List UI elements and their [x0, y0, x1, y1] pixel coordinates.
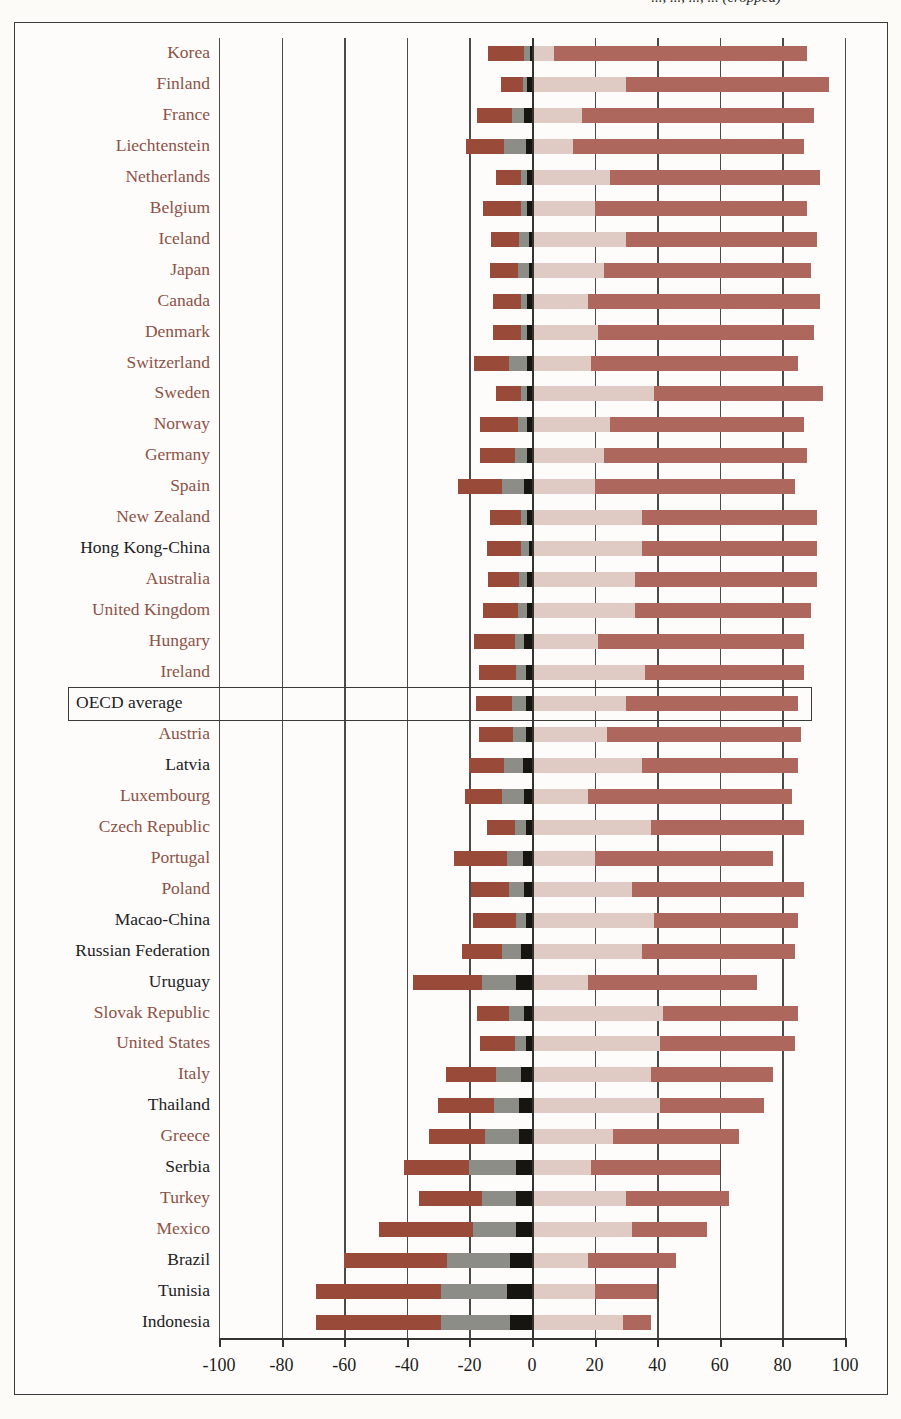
category-row: Italy — [22, 1059, 210, 1087]
seg-disagree — [482, 1191, 516, 1206]
seg-agree — [532, 665, 645, 680]
seg-strongly-agree — [598, 634, 805, 649]
seg-disagree — [509, 1006, 525, 1021]
seg-marker — [524, 479, 532, 494]
tick-100 — [845, 1338, 847, 1347]
seg-disagree — [504, 139, 526, 154]
seg-agree — [532, 139, 573, 154]
seg-strongly-agree — [642, 510, 817, 525]
category-label-denmark: Denmark — [10, 317, 210, 345]
seg-strongly-disagree — [479, 665, 517, 680]
seg-agree — [532, 1222, 632, 1237]
seg-strongly-disagree — [446, 1067, 496, 1082]
seg-marker — [524, 1006, 532, 1021]
category-label-korea: Korea — [10, 38, 210, 66]
seg-marker — [516, 1160, 532, 1175]
seg-agree — [532, 944, 642, 959]
category-row: Uruguay — [22, 967, 210, 995]
seg-strongly-disagree — [469, 758, 503, 773]
seg-strongly-agree — [626, 1191, 729, 1206]
tick-40 — [657, 1338, 659, 1347]
seg-strongly-agree — [654, 913, 798, 928]
seg-disagree — [519, 572, 527, 587]
seg-disagree — [502, 479, 524, 494]
seg-strongly-agree — [595, 851, 773, 866]
seg-strongly-disagree — [488, 572, 519, 587]
seg-agree — [532, 634, 598, 649]
seg-disagree — [515, 820, 526, 835]
seg-agree — [532, 294, 588, 309]
category-label-greece: Greece — [10, 1121, 210, 1149]
seg-strongly-agree — [660, 1036, 795, 1051]
seg-strongly-agree — [610, 170, 820, 185]
seg-disagree — [473, 1222, 517, 1237]
category-label-france: France — [10, 100, 210, 128]
category-label-turkey: Turkey — [10, 1183, 210, 1211]
seg-agree — [532, 386, 654, 401]
category-row: Mexico — [22, 1214, 210, 1242]
category-row: Netherlands — [22, 162, 210, 190]
seg-agree — [532, 170, 610, 185]
seg-disagree — [515, 1036, 526, 1051]
category-label-norway: Norway — [10, 409, 210, 437]
seg-strongly-agree — [651, 820, 804, 835]
category-row: Thailand — [22, 1090, 210, 1118]
seg-strongly-disagree — [480, 417, 518, 432]
tick-label-40: 40 — [648, 1355, 666, 1376]
category-label-liechtenstein: Liechtenstein — [10, 131, 210, 159]
seg-marker — [523, 758, 532, 773]
tick-label--80: -80 — [270, 1355, 294, 1376]
category-label-latvia: Latvia — [10, 750, 210, 778]
category-label-luxembourg: Luxembourg — [10, 781, 210, 809]
seg-marker — [519, 1129, 532, 1144]
category-row: Japan — [22, 255, 210, 283]
seg-agree — [532, 1006, 663, 1021]
seg-marker — [523, 851, 532, 866]
seg-disagree — [519, 232, 528, 247]
category-label-belgium: Belgium — [10, 193, 210, 221]
tick--20 — [469, 1338, 471, 1347]
tick--100 — [219, 1338, 221, 1347]
category-row: United Kingdom — [22, 595, 210, 623]
tick-80 — [782, 1338, 784, 1347]
category-row: United States — [22, 1028, 210, 1056]
category-row: Australia — [22, 564, 210, 592]
tick--60 — [344, 1338, 346, 1347]
category-row: France — [22, 100, 210, 128]
seg-strongly-agree — [595, 201, 808, 216]
seg-strongly-disagree — [480, 448, 514, 463]
seg-agree — [532, 851, 595, 866]
seg-strongly-agree — [635, 572, 817, 587]
seg-strongly-agree — [651, 1067, 773, 1082]
seg-strongly-agree — [632, 882, 804, 897]
seg-agree — [532, 325, 598, 340]
tick-label-100: 100 — [832, 1355, 859, 1376]
category-label-finland: Finland — [10, 69, 210, 97]
seg-agree — [532, 108, 582, 123]
seg-agree — [532, 1067, 651, 1082]
seg-agree — [532, 1129, 613, 1144]
seg-agree — [532, 1191, 626, 1206]
category-label-tunisia: Tunisia — [10, 1276, 210, 1304]
seg-disagree — [496, 1067, 521, 1082]
category-row: Serbia — [22, 1152, 210, 1180]
category-label-sweden: Sweden — [10, 378, 210, 406]
seg-strongly-disagree — [429, 1129, 485, 1144]
seg-strongly-disagree — [316, 1315, 441, 1330]
seg-agree — [532, 603, 635, 618]
seg-agree — [532, 541, 642, 556]
seg-agree — [532, 201, 595, 216]
seg-strongly-disagree — [496, 386, 521, 401]
seg-disagree — [518, 263, 529, 278]
seg-disagree — [515, 448, 528, 463]
seg-strongly-disagree — [490, 510, 521, 525]
seg-strongly-disagree — [490, 263, 518, 278]
seg-strongly-agree — [604, 448, 807, 463]
seg-agree — [532, 46, 554, 61]
seg-disagree — [482, 975, 516, 990]
category-row: Russian Federation — [22, 936, 210, 964]
seg-strongly-disagree — [480, 1036, 514, 1051]
seg-disagree — [494, 1098, 519, 1113]
seg-strongly-disagree — [491, 232, 519, 247]
figure-title-fragment: ..., ..., ..., ... (cropped) — [651, 0, 781, 6]
